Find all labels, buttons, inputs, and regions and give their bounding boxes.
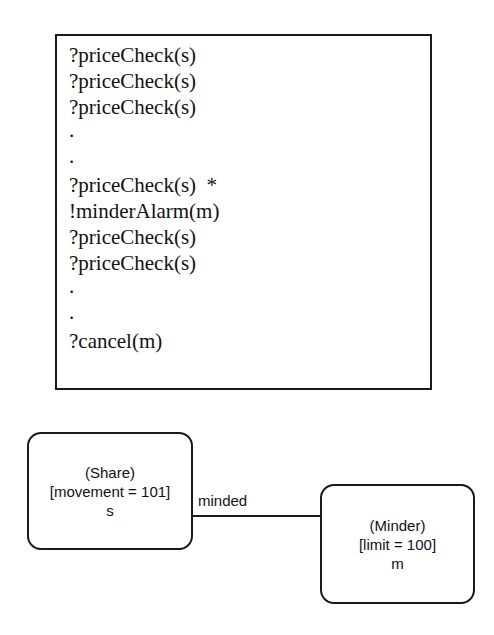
trace-event-line: ?priceCheck(s) [69, 224, 424, 250]
diagram-canvas: ?priceCheck(s)?priceCheck(s)?priceCheck(… [0, 0, 494, 635]
node-share-attribute: [movement = 101] [50, 482, 170, 501]
association-link-label: minded [198, 492, 247, 510]
trace-event-line: ?priceCheck(s) [69, 250, 424, 276]
trace-ellipsis-dot: . [69, 276, 424, 302]
object-node-minder[interactable]: (Minder) [limit = 100] m [320, 484, 475, 604]
node-minder-class-name: (Minder) [370, 516, 426, 535]
trace-ellipsis-dot: . [69, 120, 424, 146]
trace-box: ?priceCheck(s)?priceCheck(s)?priceCheck(… [55, 34, 432, 390]
trace-event-line: ?priceCheck(s) [69, 42, 424, 68]
node-minder-attribute: [limit = 100] [359, 535, 436, 554]
trace-ellipsis-dot: . [69, 302, 424, 328]
trace-ellipsis-dot: . [69, 146, 424, 172]
trace-event-line: ?priceCheck(s) * [69, 172, 424, 198]
node-share-class-name: (Share) [85, 463, 135, 482]
node-share-instance: s [106, 501, 114, 520]
trace-event-list: ?priceCheck(s)?priceCheck(s)?priceCheck(… [69, 42, 424, 354]
trace-event-line: ?priceCheck(s) [69, 68, 424, 94]
trace-event-line: ?cancel(m) [69, 328, 424, 354]
trace-event-line: !minderAlarm(m) [69, 198, 424, 224]
trace-event-line: ?priceCheck(s) [69, 94, 424, 120]
object-node-share[interactable]: (Share) [movement = 101] s [27, 432, 193, 550]
association-link-line [193, 515, 322, 517]
node-minder-instance: m [391, 554, 404, 573]
